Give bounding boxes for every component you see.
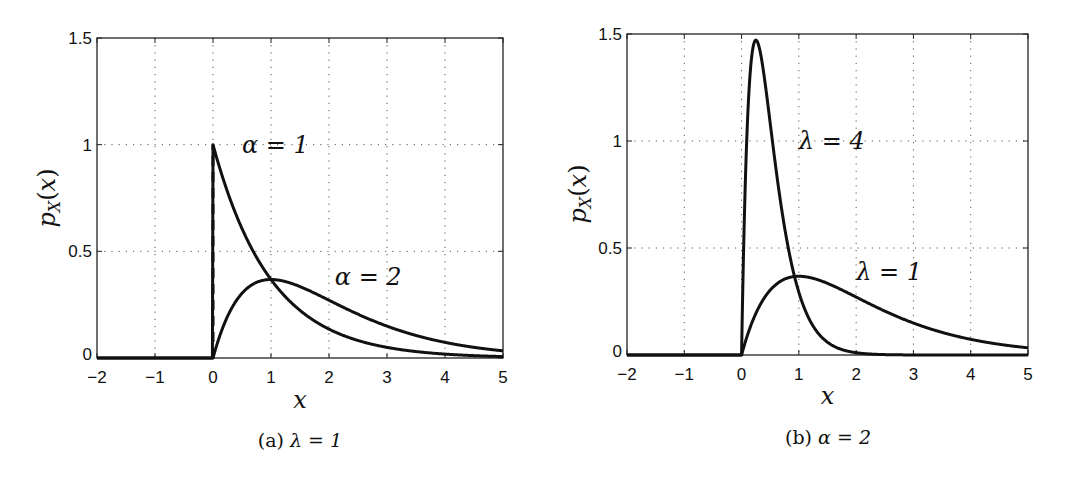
y-tick-label: 0.5 [598, 239, 622, 258]
x-tick-label: 3 [909, 365, 918, 384]
x-tick-label: −1 [145, 368, 164, 387]
x-axis-label: x [293, 386, 307, 414]
subfigure-caption: (b) α = 2 [785, 426, 871, 448]
y-axis-label: pX(x) [564, 164, 595, 223]
subfigure-caption: (a) λ = 1 [258, 429, 342, 451]
curve--1 [97, 145, 503, 358]
x-axis-label: x [821, 382, 835, 410]
x-tick-label: 5 [1023, 365, 1032, 384]
x-tick-label: 4 [440, 368, 449, 387]
x-tick-label: 5 [498, 368, 507, 387]
x-tick-label: −2 [87, 368, 106, 387]
x-tick-label: 0 [208, 368, 217, 387]
curve-annotation: λ = 1 [855, 258, 922, 286]
figure: −2−101234500.511.5xpX(x)α = 1α = 2(a) λ … [0, 0, 1083, 481]
x-tick-label: 4 [966, 365, 975, 384]
x-tick-label: 3 [382, 368, 391, 387]
y-tick-label: 1.5 [68, 29, 92, 48]
x-tick-label: 0 [737, 365, 746, 384]
curve-annotation: α = 2 [335, 263, 402, 291]
y-tick-label: 0 [83, 345, 92, 364]
y-tick-label: 0 [613, 342, 622, 361]
axes-frame [627, 34, 1028, 355]
x-tick-label: −1 [675, 365, 694, 384]
y-tick-label: 0.5 [68, 242, 92, 261]
x-tick-label: −2 [617, 365, 636, 384]
x-tick-label: 1 [794, 365, 803, 384]
x-tick-label: 2 [324, 368, 333, 387]
panel-b-chart: −2−101234500.511.5xpX(x)λ = 4λ = 1(b) α … [564, 25, 1033, 448]
curve-annotation: α = 1 [242, 131, 309, 159]
curve-annotation: λ = 4 [798, 127, 865, 155]
y-tick-label: 1 [83, 136, 92, 155]
x-tick-label: 1 [266, 368, 275, 387]
curve--4 [627, 40, 1028, 355]
panel-a-chart: −2−101234500.511.5xpX(x)α = 1α = 2(a) λ … [33, 29, 508, 451]
y-axis-label: pX(x) [33, 168, 64, 227]
y-tick-label: 1 [613, 132, 622, 151]
curve--2 [97, 280, 503, 358]
grid [627, 34, 1028, 355]
x-tick-label: 2 [851, 365, 860, 384]
y-tick-label: 1.5 [598, 25, 622, 44]
